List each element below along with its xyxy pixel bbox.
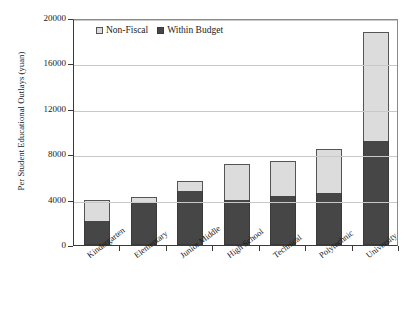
bar-technical <box>270 161 296 245</box>
y-axis-tick-label: 4000 <box>14 196 66 205</box>
legend-swatch-icon <box>157 27 164 34</box>
stacked-bar-chart: Per Student Educational Outlays (yuan) 0… <box>0 0 418 313</box>
legend-item-non-fiscal: Non-Fiscal <box>96 25 148 35</box>
gridline <box>74 202 397 203</box>
bar-segment-non-fiscal <box>270 161 296 196</box>
y-axis-tick-label: 16000 <box>14 59 66 68</box>
x-axis-tick <box>259 246 260 251</box>
y-axis-tick <box>68 64 73 65</box>
gridline <box>74 65 397 66</box>
x-axis-tick <box>212 246 213 251</box>
y-axis-tick-labels: 040008000120001600020000 <box>8 0 66 313</box>
y-axis-tick <box>68 155 73 156</box>
bar-segment-non-fiscal <box>177 181 203 190</box>
legend-label: Non-Fiscal <box>106 25 148 35</box>
legend-swatch-icon <box>96 27 103 34</box>
bar-segment-non-fiscal <box>224 164 250 199</box>
y-axis-tick <box>68 110 73 111</box>
y-axis-tick-label: 8000 <box>14 150 66 159</box>
bar-polytechnic <box>316 149 342 245</box>
x-axis-tick <box>305 246 306 251</box>
y-axis-tick-label: 0 <box>14 241 66 250</box>
y-axis-tick <box>68 246 73 247</box>
y-axis-tick <box>68 201 73 202</box>
gridline <box>74 20 397 21</box>
bar-segment-non-fiscal <box>84 200 110 222</box>
y-axis-tick-label: 20000 <box>14 14 66 23</box>
gridline <box>74 156 397 157</box>
x-axis-tick <box>166 246 167 251</box>
bar-series-container <box>74 20 397 245</box>
gridline <box>74 111 397 112</box>
bar-high-school <box>224 164 250 245</box>
legend-item-within-budget: Within Budget <box>157 25 223 35</box>
x-axis-tick <box>398 246 399 251</box>
bar-university <box>363 32 389 245</box>
x-axis-tick <box>119 246 120 251</box>
y-axis-tick-label: 12000 <box>14 105 66 114</box>
y-axis-tick <box>68 19 73 20</box>
legend-label: Within Budget <box>167 25 223 35</box>
bar-segment-non-fiscal <box>363 32 389 141</box>
bar-segment-non-fiscal <box>316 149 342 193</box>
chart-legend: Non-FiscalWithin Budget <box>96 25 223 35</box>
plot-area <box>73 19 398 246</box>
x-axis-tick <box>352 246 353 251</box>
